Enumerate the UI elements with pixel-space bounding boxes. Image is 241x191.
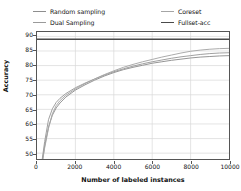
x-tick-label: 6000	[145, 164, 160, 170]
x-tick-label: 4000	[106, 164, 121, 170]
y-tick-label: 60	[3, 121, 33, 127]
legend-line-swatch-dual-sampling	[33, 22, 46, 23]
legend-column-right: Coreset Fullset-acc	[161, 6, 210, 28]
y-tick-mark	[33, 124, 36, 125]
x-tick-mark	[230, 161, 231, 164]
legend-item-coreset: Coreset	[161, 6, 210, 17]
y-tick-mark	[33, 154, 36, 155]
y-tick-mark	[33, 95, 36, 96]
legend-label-fullset-acc: Fullset-acc	[178, 19, 210, 26]
legend-line-swatch-random-sampling	[33, 11, 46, 12]
legend-item-fullset-acc: Fullset-acc	[161, 17, 210, 28]
legend-item-random-sampling: Random sampling	[33, 6, 105, 17]
x-tick-label: 2000	[67, 164, 82, 170]
x-tick-label: 0	[34, 164, 38, 170]
data-curves	[37, 32, 229, 159]
y-tick-label: 90	[3, 32, 33, 38]
plot-area	[36, 31, 230, 160]
legend-item-dual-sampling: Dual Sampling	[33, 17, 105, 28]
x-tick-mark	[75, 161, 76, 164]
legend-line-swatch-fullset-acc	[161, 22, 174, 23]
y-axis-label: Accuracy	[2, 46, 10, 106]
chart-figure: Random sampling Dual Sampling Coreset Fu…	[0, 0, 241, 191]
chart-legend: Random sampling Dual Sampling Coreset Fu…	[33, 6, 233, 28]
x-tick-mark	[191, 161, 192, 164]
y-tick-mark	[33, 80, 36, 81]
y-tick-label: 55	[3, 136, 33, 142]
series-dual-sampling	[41, 53, 229, 159]
y-tick-label: 65	[3, 107, 33, 113]
legend-label-dual-sampling: Dual Sampling	[50, 19, 94, 26]
legend-label-coreset: Coreset	[178, 8, 201, 15]
x-tick-mark	[114, 161, 115, 164]
y-tick-mark	[33, 139, 36, 140]
legend-line-swatch-coreset	[161, 11, 174, 12]
y-tick-mark	[33, 35, 36, 36]
x-axis-ticks: 0200040006000800010000	[36, 164, 230, 173]
legend-label-random-sampling: Random sampling	[50, 8, 105, 15]
y-tick-mark	[33, 50, 36, 51]
x-tick-mark	[36, 161, 37, 164]
series-random-sampling	[41, 56, 229, 159]
x-axis-label: Number of labeled instances	[36, 176, 230, 184]
x-tick-mark	[152, 161, 153, 164]
x-tick-label: 10000	[220, 164, 239, 170]
legend-column-left: Random sampling Dual Sampling	[33, 6, 105, 28]
y-tick-label: 50	[3, 151, 33, 157]
y-tick-mark	[33, 65, 36, 66]
x-tick-label: 8000	[184, 164, 199, 170]
series-coreset	[41, 48, 229, 159]
y-tick-mark	[33, 110, 36, 111]
